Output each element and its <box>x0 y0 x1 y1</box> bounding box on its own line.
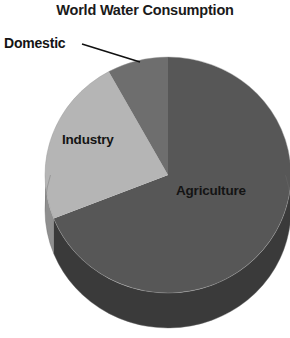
pie-label-industry: Industry <box>62 132 114 147</box>
pie-label-domestic: Domestic <box>4 35 65 51</box>
pie-top-faces <box>45 57 290 293</box>
domestic-leader-line <box>82 44 140 62</box>
chart-page: World Water Consumption <box>0 0 290 338</box>
pie-label-agriculture: Agriculture <box>176 183 246 198</box>
